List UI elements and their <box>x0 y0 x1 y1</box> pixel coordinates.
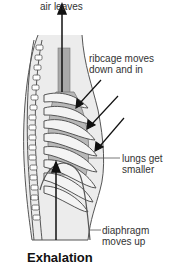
trachea <box>58 48 70 93</box>
ribcage-label-line2: down and in <box>89 64 143 75</box>
diaphragm-label-line1: diaphragm <box>102 225 149 236</box>
air-leaves-label: air leaves <box>40 1 83 12</box>
diagram-title: Exhalation <box>27 250 93 265</box>
lungs-label-line1: lungs get <box>122 153 163 164</box>
diaphragm-label-line2: moves up <box>102 236 145 247</box>
lungs-label-line2: smaller <box>122 164 154 175</box>
ribcage-label-line1: ribcage moves <box>89 53 154 64</box>
